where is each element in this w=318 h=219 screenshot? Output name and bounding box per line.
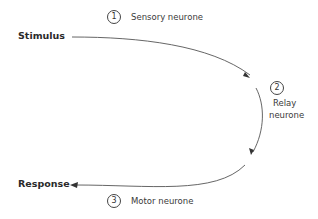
- stimulus-label: Stimulus: [18, 30, 65, 41]
- sensory-neurone-label: Sensory neurone: [131, 12, 203, 22]
- step-2-badge: 2: [270, 81, 284, 95]
- response-label: Response: [18, 178, 70, 189]
- step-1-badge: 1: [107, 10, 121, 24]
- step-3-badge: 3: [107, 194, 121, 208]
- motor-neurone-path: [75, 165, 245, 187]
- arrowhead-motor: [70, 182, 78, 188]
- relay-label-line1: Relay: [273, 98, 296, 108]
- sensory-neurone-path: [72, 37, 250, 75]
- relay-neurone-path: [253, 88, 262, 152]
- motor-neurone-label: Motor neurone: [131, 196, 193, 206]
- relay-label-line2: neurone: [269, 110, 304, 120]
